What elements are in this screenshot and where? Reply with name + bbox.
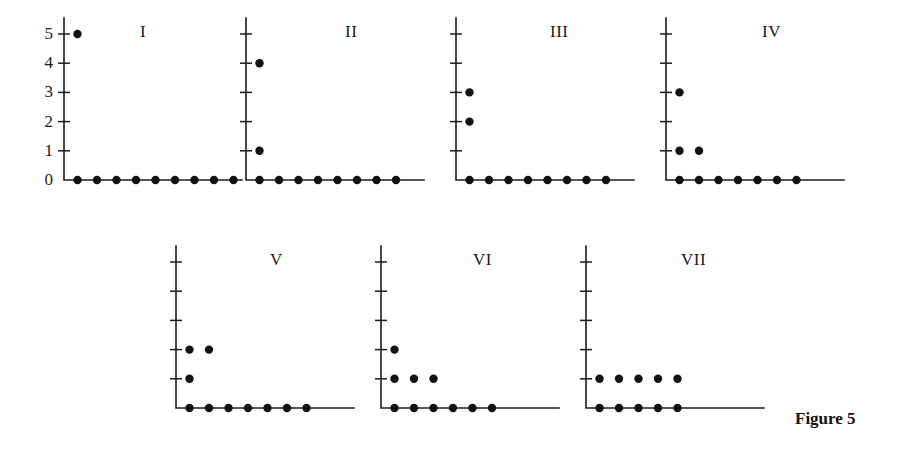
data-point xyxy=(465,117,473,125)
data-point xyxy=(224,404,232,412)
figure-canvas: 012345IIIIIIIVVVIVII xyxy=(0,0,913,467)
data-point xyxy=(151,176,159,184)
data-point xyxy=(275,176,283,184)
data-point xyxy=(634,375,642,383)
panel-title-i: I xyxy=(140,22,146,42)
data-point xyxy=(595,404,603,412)
data-point xyxy=(485,176,493,184)
data-point xyxy=(429,375,437,383)
data-point xyxy=(353,176,361,184)
data-point xyxy=(524,176,532,184)
data-point xyxy=(93,176,101,184)
data-point xyxy=(302,404,310,412)
data-point xyxy=(634,404,642,412)
data-point xyxy=(714,176,722,184)
data-point xyxy=(255,59,263,67)
axis-lines xyxy=(176,246,354,408)
data-point xyxy=(132,176,140,184)
y-axis-label-4: 4 xyxy=(45,53,54,72)
data-point xyxy=(582,176,590,184)
data-point xyxy=(773,176,781,184)
data-point xyxy=(392,176,400,184)
data-point xyxy=(654,404,662,412)
data-point xyxy=(255,147,263,155)
data-point xyxy=(390,375,398,383)
data-point xyxy=(73,176,81,184)
data-point xyxy=(449,404,457,412)
data-point xyxy=(615,404,623,412)
data-point xyxy=(314,176,322,184)
data-point xyxy=(185,345,193,353)
data-point xyxy=(465,176,473,184)
data-point xyxy=(595,375,603,383)
data-point xyxy=(205,345,213,353)
data-point xyxy=(244,404,252,412)
y-axis-label-3: 3 xyxy=(45,82,54,101)
y-axis-label-0: 0 xyxy=(45,170,54,189)
data-point xyxy=(488,404,496,412)
data-point xyxy=(255,176,263,184)
data-point xyxy=(753,176,761,184)
axis-lines xyxy=(666,18,844,180)
data-point xyxy=(390,404,398,412)
data-point xyxy=(171,176,179,184)
data-point xyxy=(602,176,610,184)
data-point xyxy=(112,176,120,184)
data-point xyxy=(210,176,218,184)
data-point xyxy=(675,147,683,155)
axis-lines xyxy=(381,246,559,408)
data-point xyxy=(333,176,341,184)
data-point xyxy=(504,176,512,184)
data-point xyxy=(468,404,476,412)
data-point xyxy=(205,404,213,412)
data-point xyxy=(695,176,703,184)
data-point xyxy=(283,404,291,412)
figure-caption: Figure 5 xyxy=(795,409,856,429)
panel-title-ii: II xyxy=(345,22,357,42)
data-point xyxy=(185,404,193,412)
y-axis-label-2: 2 xyxy=(45,112,54,131)
data-point xyxy=(675,176,683,184)
axis-lines xyxy=(586,246,764,408)
data-point xyxy=(372,176,380,184)
data-point xyxy=(229,176,237,184)
y-axis-label-5: 5 xyxy=(45,24,54,43)
data-point xyxy=(734,176,742,184)
data-point xyxy=(615,375,623,383)
data-point xyxy=(673,375,681,383)
data-point xyxy=(429,404,437,412)
data-point xyxy=(294,176,302,184)
panel-title-iv: IV xyxy=(762,22,781,42)
data-point xyxy=(410,404,418,412)
panel-title-vi: VI xyxy=(473,250,492,270)
data-point xyxy=(654,375,662,383)
data-point xyxy=(73,30,81,38)
data-point xyxy=(263,404,271,412)
data-point xyxy=(675,88,683,96)
axis-lines xyxy=(456,18,634,180)
panel-title-v: V xyxy=(270,250,283,270)
data-point xyxy=(465,88,473,96)
data-point xyxy=(390,345,398,353)
axis-lines xyxy=(64,18,242,180)
y-axis-label-1: 1 xyxy=(45,141,54,160)
data-point xyxy=(410,375,418,383)
data-point xyxy=(563,176,571,184)
data-point xyxy=(792,176,800,184)
panel-title-vii: VII xyxy=(681,250,706,270)
data-point xyxy=(185,375,193,383)
axis-lines xyxy=(246,18,424,180)
data-point xyxy=(543,176,551,184)
data-point xyxy=(695,147,703,155)
data-point xyxy=(673,404,681,412)
data-point xyxy=(190,176,198,184)
panel-title-iii: III xyxy=(550,22,568,42)
